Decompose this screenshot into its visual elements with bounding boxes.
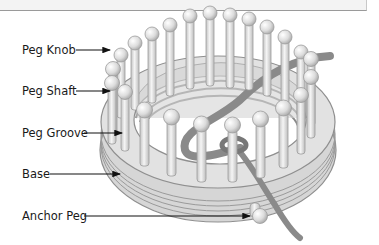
label-peg-knob: Peg Knob xyxy=(22,43,76,57)
label-anchor-peg: Anchor Peg xyxy=(22,209,87,223)
label-base: Base xyxy=(22,167,50,181)
label-peg-shaft: Peg Shaft xyxy=(22,84,77,98)
label-peg-groove: Peg Groove xyxy=(22,126,88,140)
